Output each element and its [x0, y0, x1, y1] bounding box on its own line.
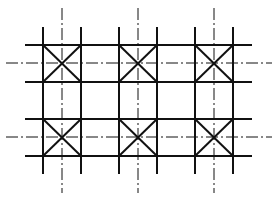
- grid-diagram: [0, 0, 277, 198]
